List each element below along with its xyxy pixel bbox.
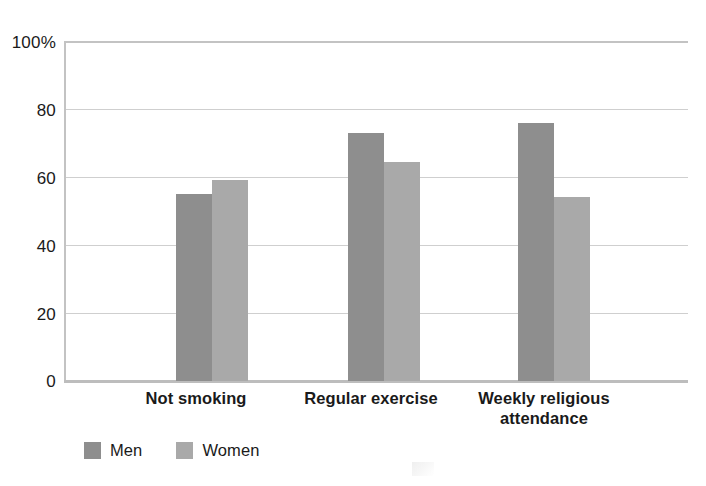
category-label-line: Regular exercise: [304, 389, 438, 407]
legend-item-women: Women: [176, 441, 259, 460]
plot-area: [64, 41, 688, 381]
legend-item-men: Men: [84, 441, 142, 460]
legend: Men Women: [84, 441, 259, 460]
plot-frame-left-border: [64, 41, 66, 382]
y-tick-label-80: 80: [0, 102, 56, 119]
legend-swatch-men-icon: [84, 442, 101, 459]
plot-frame-top-border: [64, 41, 688, 43]
legend-swatch-women-icon: [176, 442, 193, 459]
bar-men-1: [348, 133, 384, 381]
legend-label-men: Men: [110, 441, 142, 460]
y-axis: 100% 80 60 40 20 0: [0, 0, 56, 486]
y-tick-label-20: 20: [0, 306, 56, 323]
bar-women-0: [212, 180, 248, 381]
category-label-regular-exercise: Regular exercise: [276, 388, 466, 408]
category-label-line: Not smoking: [145, 389, 246, 407]
bar-men-0: [176, 194, 212, 381]
legend-label-women: Women: [202, 441, 259, 460]
y-tick-label-40: 40: [0, 238, 56, 255]
bar-women-2: [554, 197, 590, 381]
category-label-not-smoking: Not smoking: [106, 388, 286, 408]
category-label-weekly-religious-attendance: Weekly religious attendance: [446, 388, 642, 428]
category-label-line: attendance: [500, 409, 588, 427]
bar-women-1: [384, 162, 420, 381]
x-axis-category-labels: Not smoking Regular exercise Weekly reli…: [64, 388, 688, 444]
y-tick-label-0: 0: [0, 373, 56, 390]
bar-chart: 100% 80 60 40 20 0 Not smoking Regular e…: [0, 0, 706, 486]
y-tick-label-60: 60: [0, 170, 56, 187]
scan-artifact: [412, 462, 434, 476]
category-label-line: Weekly religious: [478, 389, 610, 407]
y-tick-label-100: 100%: [0, 34, 56, 51]
bar-men-2: [518, 123, 554, 381]
gridline-80: [66, 109, 688, 110]
